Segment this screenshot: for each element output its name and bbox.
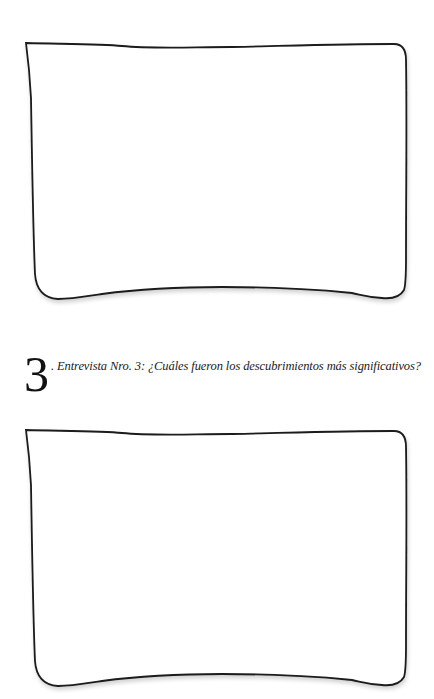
- section-heading: 3 . Entrevista Nro. 3: ¿Cuáles fueron lo…: [24, 352, 421, 396]
- section-number: 3: [24, 352, 49, 396]
- answer-box-3[interactable]: [22, 425, 414, 691]
- hand-drawn-frame: [22, 425, 414, 691]
- hand-drawn-frame: [22, 38, 414, 304]
- answer-box-2[interactable]: [22, 38, 414, 304]
- section-question: . Entrevista Nro. 3: ¿Cuáles fueron los …: [51, 359, 421, 374]
